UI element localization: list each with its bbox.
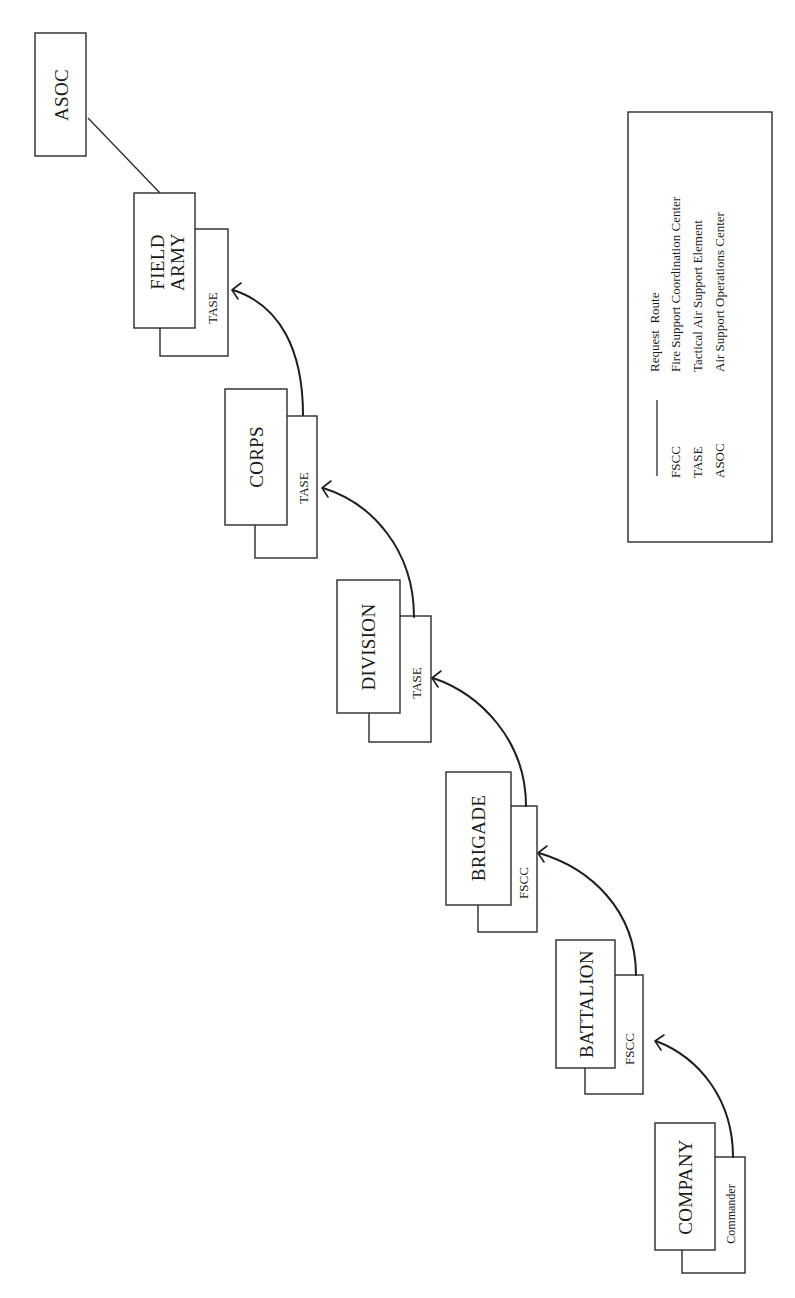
company-element-label: Commander — [724, 1184, 738, 1243]
legend-label-fscc: Fire Support Coordination Center — [668, 196, 683, 372]
echelon-field-army: FIELD ARMY TASE — [134, 193, 228, 356]
legend-abbr-asoc: ASOC — [712, 443, 727, 478]
legend: FSCC TASE ASOC Request Route Fire Suppor… — [628, 112, 772, 542]
field-army-label-line1: FIELD — [147, 234, 168, 289]
asoc-connector-line — [88, 118, 160, 193]
legend-label-tase: Tactical Air Support Element — [690, 220, 705, 372]
legend-label-request-route: Request Route — [647, 292, 662, 372]
echelon-division: DIVISION TASE — [337, 580, 431, 742]
company-label: COMPANY — [675, 1139, 696, 1234]
division-label: DIVISION — [358, 604, 379, 691]
brigade-label: BRIGADE — [468, 795, 489, 882]
asoc-label: ASOC — [51, 69, 72, 121]
echelon-brigade: BRIGADE FSCC — [446, 772, 537, 932]
legend-label-asoc: Air Support Operations Center — [712, 211, 727, 372]
echelon-battalion: BATTALION FSCC — [556, 940, 643, 1094]
battalion-label: BATTALION — [576, 950, 597, 1058]
division-element-label: TASE — [409, 667, 424, 699]
brigade-element-label: FSCC — [516, 867, 531, 899]
corps-element-label: TASE — [296, 472, 311, 504]
corps-label: CORPS — [246, 426, 267, 488]
legend-abbr-fscc: FSCC — [668, 446, 683, 478]
legend-abbr-tase: TASE — [690, 446, 705, 478]
asoc-node: ASOC — [35, 33, 86, 156]
field-army-label-line2: ARMY — [167, 233, 188, 291]
request-route-diagram: ASOC FIELD ARMY TASE CORPS TASE DIVISION… — [0, 0, 795, 1298]
field-army-element-label: TASE — [205, 292, 220, 324]
battalion-element-label: FSCC — [622, 1033, 637, 1065]
echelon-company: COMPANY Commander — [655, 1123, 745, 1273]
